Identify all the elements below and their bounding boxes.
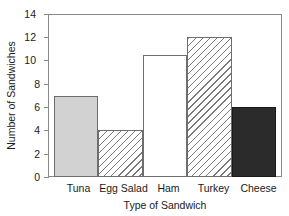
x-tick-label-cheese: Cheese	[212, 182, 289, 195]
bar-chart: Number of Sandwiches 0 2 4 6 8 10 12 14 …	[0, 0, 289, 216]
y-tick-mark-0	[44, 177, 49, 178]
y-tick-label-8: 8	[18, 78, 40, 90]
bar-ham[interactable]	[143, 55, 187, 177]
y-tick-label-10: 10	[14, 54, 36, 66]
bar-turkey[interactable]	[187, 37, 231, 177]
y-tick-label-4: 4	[18, 124, 40, 136]
bar-tuna[interactable]	[54, 96, 98, 178]
y-tick-label-2: 2	[18, 148, 40, 160]
y-tick-label-14: 14	[14, 8, 36, 20]
x-axis-title: Type of Sandwich	[48, 199, 282, 211]
y-tick-label-12: 12	[14, 31, 36, 43]
bar-cheese[interactable]	[232, 107, 276, 177]
y-tick-label-6: 6	[18, 101, 40, 113]
bar-egg-salad[interactable]	[98, 130, 142, 177]
bars-layer	[48, 14, 282, 177]
